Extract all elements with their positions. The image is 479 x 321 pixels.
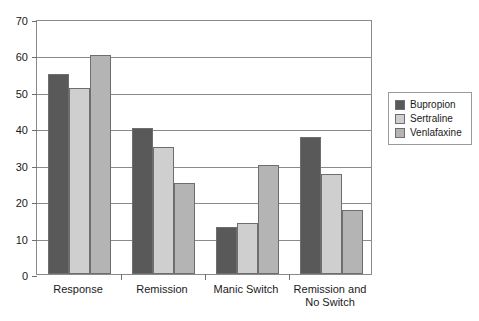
legend-swatch-bupropion <box>395 100 405 110</box>
bar <box>321 174 342 274</box>
x-axis-label-line: Response <box>36 283 120 296</box>
bar <box>132 128 153 274</box>
gridline <box>37 57 371 58</box>
bar <box>300 137 321 274</box>
bar <box>48 74 69 274</box>
y-axis-tick <box>32 276 37 277</box>
y-axis-tick <box>32 203 37 204</box>
bar <box>90 55 111 274</box>
x-axis-label-line: Remission and <box>288 283 372 296</box>
legend-label: Venlafaxine <box>410 127 462 138</box>
bar <box>216 227 237 274</box>
x-axis-tick <box>121 274 122 280</box>
x-axis-category-label: Remission andNo Switch <box>288 283 372 309</box>
chart-legend: Bupropion Sertraline Venlafaxine <box>388 92 472 145</box>
x-axis-category-label: Remission <box>120 283 204 296</box>
bar <box>342 210 363 274</box>
bar <box>174 183 195 274</box>
legend-item: Sertraline <box>395 113 466 124</box>
legend-item: Bupropion <box>395 99 466 110</box>
y-axis-label: 10 <box>16 234 28 245</box>
bar <box>153 147 174 275</box>
bar-chart: 010203040506070 ResponseRemissionManic S… <box>0 0 479 321</box>
x-axis-label-line: Remission <box>120 283 204 296</box>
bar <box>258 165 279 274</box>
plot-area: 010203040506070 <box>36 20 372 275</box>
x-axis-tick <box>205 274 206 280</box>
y-axis-tick <box>32 240 37 241</box>
x-axis-category-label: Response <box>36 283 120 296</box>
y-axis-label: 40 <box>16 125 28 136</box>
x-axis-label-line: Manic Switch <box>204 283 288 296</box>
y-axis-label: 60 <box>16 52 28 63</box>
bar <box>237 223 258 274</box>
bar <box>69 88 90 274</box>
legend-label: Bupropion <box>410 99 456 110</box>
legend-item: Venlafaxine <box>395 127 466 138</box>
y-axis-tick <box>32 167 37 168</box>
x-axis-label-line: No Switch <box>288 296 372 309</box>
x-axis-tick <box>289 274 290 280</box>
legend-label: Sertraline <box>410 113 453 124</box>
y-axis-tick <box>32 94 37 95</box>
x-axis-category-label: Manic Switch <box>204 283 288 296</box>
legend-swatch-sertraline <box>395 114 405 124</box>
y-axis-label: 50 <box>16 88 28 99</box>
y-axis-label: 20 <box>16 198 28 209</box>
y-axis-tick <box>32 21 37 22</box>
y-axis-label: 30 <box>16 161 28 172</box>
y-axis-tick <box>32 57 37 58</box>
y-axis-label: 0 <box>22 271 28 282</box>
y-axis-label: 70 <box>16 16 28 27</box>
legend-swatch-venlafaxine <box>395 128 405 138</box>
y-axis-tick <box>32 130 37 131</box>
